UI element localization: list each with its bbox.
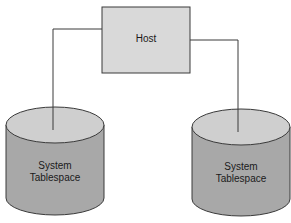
host-label: Host [102, 33, 190, 45]
left-tablespace-label-line1: System [6, 160, 104, 172]
left-tablespace-label-line2: Tablespace [6, 172, 104, 184]
right-tablespace-label-line1: System [192, 161, 290, 173]
left-tablespace-label: System Tablespace [6, 160, 104, 184]
right-tablespace-label: System Tablespace [192, 161, 290, 185]
right-tablespace-label-line2: Tablespace [192, 173, 290, 185]
